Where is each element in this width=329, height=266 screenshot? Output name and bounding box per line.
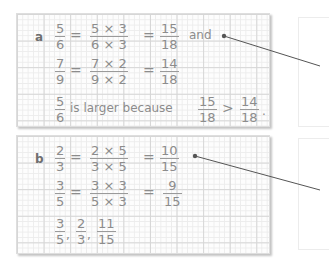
fraction: 1115 xyxy=(97,217,116,246)
fraction: 23 xyxy=(55,144,65,173)
equals-sign: = xyxy=(143,149,155,165)
fraction: 3 × 35 × 3 xyxy=(90,179,128,208)
fraction: 35 xyxy=(55,217,65,246)
fraction: 7 × 29 × 2 xyxy=(90,57,128,86)
comma: , xyxy=(66,228,70,242)
fraction: 79 xyxy=(55,57,65,86)
equals-sign: = xyxy=(70,184,82,200)
equals-sign: = xyxy=(70,62,82,78)
fraction: 1518 xyxy=(160,22,179,51)
fraction: 35 xyxy=(55,179,65,208)
comma: , xyxy=(87,228,91,242)
fraction: 5 × 36 × 3 xyxy=(90,22,128,51)
part-b-label: b xyxy=(35,152,44,166)
fraction: 1418 xyxy=(160,57,179,86)
equals-sign: = xyxy=(143,27,155,43)
leader-line-b xyxy=(195,156,320,190)
fraction: 1518 xyxy=(198,95,217,124)
equals-sign: = xyxy=(143,62,155,78)
fraction: 1418 xyxy=(240,95,259,124)
fraction: 1015 xyxy=(160,144,179,173)
part-a-label: a xyxy=(35,30,43,44)
fraction: 56 xyxy=(55,22,65,51)
equals-sign: = xyxy=(143,184,155,200)
leader-line-a xyxy=(224,36,320,66)
equals-sign: = xyxy=(70,149,82,165)
period: . xyxy=(262,104,266,118)
and-text: and xyxy=(189,28,212,42)
fraction: 915 xyxy=(163,179,182,208)
greater-than-sign: > xyxy=(222,100,234,116)
comparison-text: is larger because xyxy=(70,101,173,115)
equals-sign: = xyxy=(70,27,82,43)
fraction: 23 xyxy=(76,217,86,246)
fraction: 2 × 53 × 5 xyxy=(90,144,128,173)
fraction: 56 xyxy=(55,95,65,124)
